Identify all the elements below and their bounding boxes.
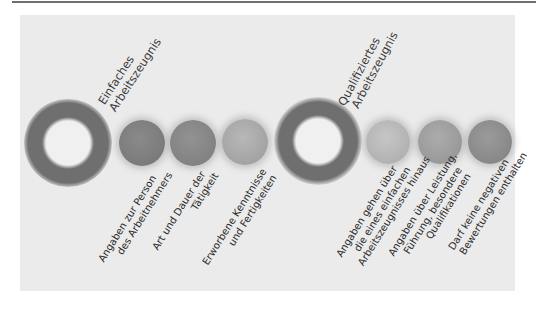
circle-art-und-dauer bbox=[170, 120, 216, 166]
ring-einfaches-arbeitszeugnis bbox=[24, 99, 112, 187]
ring-qualifiziertes-arbeitszeugnis bbox=[274, 97, 362, 185]
top-rule-line bbox=[12, 1, 536, 3]
circle-erworbene-kenntnisse bbox=[222, 119, 268, 165]
circle-angaben-zur-person bbox=[119, 120, 165, 166]
